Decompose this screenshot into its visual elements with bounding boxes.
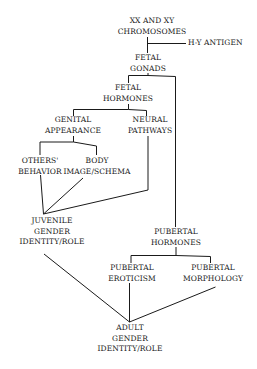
node-label: HORMONES <box>103 94 153 105</box>
node-label: GENDER <box>97 334 162 345</box>
node-chromosomes: XX AND XY CHROMOSOMES <box>118 16 187 37</box>
node-label: GENDER <box>19 227 84 238</box>
edge-morphology-adult <box>130 287 216 322</box>
node-body-image: BODY IMAGE/SCHEMA <box>63 156 130 177</box>
node-juvenile-identity: JUVENILE GENDER IDENTITY/ROLE <box>19 216 84 248</box>
edge-gonads-hormones <box>129 76 149 84</box>
node-label: BODY <box>63 156 130 167</box>
node-label: FETAL <box>103 83 153 94</box>
node-fetal-hormones: FETAL HORMONES <box>103 83 153 104</box>
edge-genital-body <box>74 142 97 155</box>
node-label: OTHERS' <box>18 156 62 167</box>
node-pubertal-morphology: PUBERTAL MORPHOLOGY <box>183 263 243 284</box>
node-adult-identity: ADULT GENDER IDENTITY/ROLE <box>97 323 162 355</box>
node-label: EROTICISM <box>108 274 156 285</box>
node-label: IMAGE/SCHEMA <box>63 167 130 178</box>
node-label: GONADS <box>130 64 166 75</box>
node-hy-antigen: H-Y ANTIGEN <box>188 38 243 49</box>
node-neural-pathways: NEURAL PATHWAYS <box>128 115 172 136</box>
node-pubertal-hormones: PUBERTAL HORMONES <box>151 227 201 248</box>
node-label: HORMONES <box>151 238 201 249</box>
node-label: GENITAL <box>45 115 101 126</box>
node-label: IDENTITY/ROLE <box>97 344 162 355</box>
node-genital-appearance: GENITAL APPEARANCE <box>45 115 101 136</box>
node-others-behavior: OTHERS' BEHAVIOR <box>18 156 62 177</box>
edge-others-juvenile <box>41 175 44 214</box>
node-label: IDENTITY/ROLE <box>19 237 84 248</box>
edge-pubhormones-eroticism <box>131 256 176 264</box>
node-label: APPEARANCE <box>45 126 101 137</box>
node-label: H-Y ANTIGEN <box>188 38 243 49</box>
node-label: FETAL <box>130 53 166 64</box>
edge-genital-others <box>40 142 74 155</box>
edge-body-juvenile <box>44 178 84 214</box>
node-label: PUBERTAL <box>151 227 201 238</box>
node-label: CHROMOSOMES <box>118 27 187 38</box>
node-label: MORPHOLOGY <box>183 274 243 285</box>
node-label: JUVENILE <box>19 216 84 227</box>
node-label: PUBERTAL <box>108 263 156 274</box>
edge-pubhormones-morphology <box>176 256 211 264</box>
node-label: NEURAL <box>128 115 172 126</box>
node-pubertal-eroticism: PUBERTAL EROTICISM <box>108 263 156 284</box>
node-label: XX AND XY <box>118 16 187 27</box>
node-label: PUBERTAL <box>183 263 243 274</box>
node-label: ADULT <box>97 323 162 334</box>
node-label: PATHWAYS <box>128 126 172 137</box>
connector-lines <box>0 0 257 369</box>
node-label: BEHAVIOR <box>18 167 62 178</box>
node-fetal-gonads: FETAL GONADS <box>130 53 166 74</box>
